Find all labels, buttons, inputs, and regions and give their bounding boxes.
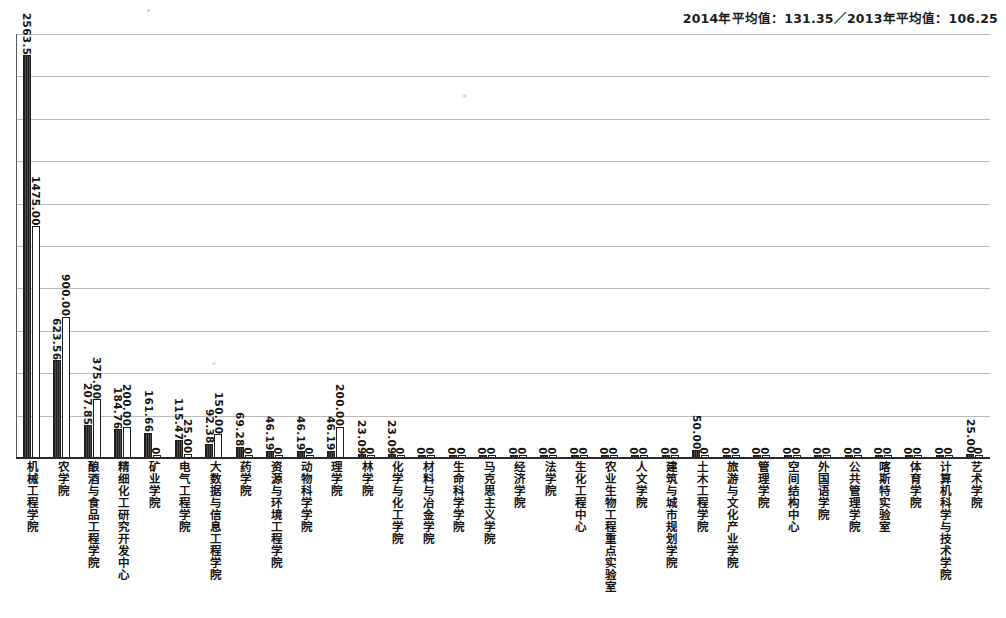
category-label-text: 建筑与城市规划学院 bbox=[665, 461, 677, 569]
bar-value-label: 0 bbox=[761, 447, 771, 454]
category-label-text: 农业生物工程重点实验室 bbox=[604, 461, 616, 593]
category-label-text: 机械工程学院 bbox=[25, 461, 37, 533]
bar-group: 00 bbox=[473, 34, 503, 458]
category-label-text: 化学与化工学院 bbox=[391, 461, 403, 545]
bar-value-label: 0 bbox=[731, 447, 741, 454]
bar-value-label: 0 bbox=[822, 447, 832, 454]
category-label-农业生物工程重点实验室: 农业生物工程重点实验室 bbox=[594, 461, 624, 616]
category-label-土木工程学院: 土木工程学院 bbox=[686, 461, 716, 616]
category-label-法学院: 法学院 bbox=[533, 461, 563, 616]
bar-group: 00 bbox=[625, 34, 655, 458]
bar-value-label: 0 bbox=[609, 447, 619, 454]
bar-value-label: 0 bbox=[305, 447, 315, 454]
bar-group: 00 bbox=[412, 34, 442, 458]
bar-value-label: 0 bbox=[883, 447, 893, 454]
bar-value-label: 0 bbox=[944, 447, 954, 454]
bar-value-label: 623.56 bbox=[52, 318, 63, 360]
bar-value-label: 0 bbox=[274, 447, 284, 454]
category-label-text: 农学院 bbox=[56, 461, 68, 497]
category-label-艺术学院: 艺术学院 bbox=[960, 461, 990, 616]
bar-2014年-精细化工研究开发中心: 184.76 bbox=[114, 429, 122, 458]
bar-value-label: 900.00 bbox=[61, 274, 72, 316]
scan-speck bbox=[147, 9, 150, 12]
bar-2013年-理学院: 200.00 bbox=[336, 427, 344, 458]
category-label-text: 理学院 bbox=[330, 461, 342, 497]
category-label-text: 动物科学学院 bbox=[299, 461, 311, 533]
bar-2013年-农学院: 900.00 bbox=[62, 317, 70, 458]
category-label-材料与冶金学院: 材料与冶金学院 bbox=[412, 461, 442, 616]
bar-group: 00 bbox=[655, 34, 685, 458]
category-label-text: 公共管理学院 bbox=[847, 461, 859, 533]
category-label-机械工程学院: 机械工程学院 bbox=[16, 461, 46, 616]
category-label-text: 马克思主义学院 bbox=[482, 461, 494, 545]
bar-group: 46.190 bbox=[290, 34, 320, 458]
category-label-text: 人文学院 bbox=[634, 461, 646, 509]
category-label-管理学院: 管理学院 bbox=[747, 461, 777, 616]
average-annotation: 2014年平均值：131.35／2013年平均值：106.25 bbox=[683, 8, 998, 27]
bar-value-label: 0 bbox=[579, 447, 589, 454]
category-label-生化工程中心: 生化工程中心 bbox=[564, 461, 594, 616]
category-label-text: 大数据与信息工程学院 bbox=[208, 461, 220, 581]
category-label-经济学院: 经济学院 bbox=[503, 461, 533, 616]
category-label-空间结构中心: 空间结构中心 bbox=[777, 461, 807, 616]
bar-group: 69.280 bbox=[229, 34, 259, 458]
bar-2014年-机械工程学院: 2563.5 bbox=[23, 55, 31, 458]
category-label-资源与环境工程学院: 资源与环境工程学院 bbox=[260, 461, 290, 616]
bar-value-label: 0 bbox=[974, 447, 984, 454]
bar-value-label: 50.00 bbox=[691, 415, 702, 450]
category-label-马克思主义学院: 马克思主义学院 bbox=[473, 461, 503, 616]
category-label-text: 材料与冶金学院 bbox=[421, 461, 433, 545]
x-axis-line bbox=[16, 457, 990, 459]
category-label-喀斯特实验室: 喀斯特实验室 bbox=[868, 461, 898, 616]
bar-group: 184.76200.00 bbox=[107, 34, 137, 458]
bar-series-container: 2563.51475.00623.56900.00207.85375.00184… bbox=[16, 34, 990, 458]
bar-2013年-机械工程学院: 1475.00 bbox=[32, 226, 40, 458]
bar-value-label: 0 bbox=[670, 447, 680, 454]
category-label-动物科学学院: 动物科学学院 bbox=[290, 461, 320, 616]
bar-value-label: 0 bbox=[457, 447, 467, 454]
category-label-林学院: 林学院 bbox=[351, 461, 381, 616]
bar-group: 50.000 bbox=[686, 34, 716, 458]
category-label-计算机科学与技术学院: 计算机科学与技术学院 bbox=[929, 461, 959, 616]
bar-value-label: 0 bbox=[366, 447, 376, 454]
bar-group: 00 bbox=[929, 34, 959, 458]
category-label-text: 管理学院 bbox=[756, 461, 768, 509]
bar-group: 46.19200.00 bbox=[320, 34, 350, 458]
category-label-text: 喀斯特实验室 bbox=[878, 461, 890, 533]
bar-group: 23.090 bbox=[351, 34, 381, 458]
bar-value-label: 0 bbox=[913, 447, 923, 454]
bar-group: 161.660 bbox=[138, 34, 168, 458]
category-label-text: 资源与环境工程学院 bbox=[269, 461, 281, 569]
bar-value-label: 25.00 bbox=[183, 419, 194, 454]
category-label-大数据与信息工程学院: 大数据与信息工程学院 bbox=[199, 461, 229, 616]
category-label-text: 矿业学院 bbox=[147, 461, 159, 509]
bar-group: 115.4725.00 bbox=[168, 34, 198, 458]
category-label-人文学院: 人文学院 bbox=[625, 461, 655, 616]
bar-value-label: 0 bbox=[244, 447, 254, 454]
bar-value-label: 0 bbox=[518, 447, 528, 454]
bar-group: 2563.51475.00 bbox=[16, 34, 46, 458]
bar-group: 00 bbox=[716, 34, 746, 458]
bar-value-label: 69.28 bbox=[235, 412, 246, 447]
category-label-text: 旅游与文化产业学院 bbox=[725, 461, 737, 569]
bar-value-label: 0 bbox=[396, 447, 406, 454]
bar-group: 00 bbox=[807, 34, 837, 458]
bar-group: 00 bbox=[533, 34, 563, 458]
bar-group: 25.000 bbox=[960, 34, 990, 458]
category-label-text: 林学院 bbox=[360, 461, 372, 497]
category-label-体育学院: 体育学院 bbox=[899, 461, 929, 616]
category-label-药学院: 药学院 bbox=[229, 461, 259, 616]
category-label-text: 体育学院 bbox=[908, 461, 920, 509]
bar-value-label: 0 bbox=[700, 447, 710, 454]
category-label-化学与化工学院: 化学与化工学院 bbox=[381, 461, 411, 616]
category-label-text: 法学院 bbox=[543, 461, 555, 497]
category-label-公共管理学院: 公共管理学院 bbox=[838, 461, 868, 616]
category-label-text: 计算机科学与技术学院 bbox=[938, 461, 950, 581]
category-label-text: 土木工程学院 bbox=[695, 461, 707, 533]
bar-2013年-精细化工研究开发中心: 200.00 bbox=[123, 427, 131, 458]
bar-group: 00 bbox=[503, 34, 533, 458]
bar-value-label: 200.00 bbox=[122, 384, 133, 426]
bar-2014年-大数据与信息工程学院: 92.38 bbox=[205, 444, 213, 459]
category-label-旅游与文化产业学院: 旅游与文化产业学院 bbox=[716, 461, 746, 616]
bar-value-label: 200.00 bbox=[335, 384, 346, 426]
